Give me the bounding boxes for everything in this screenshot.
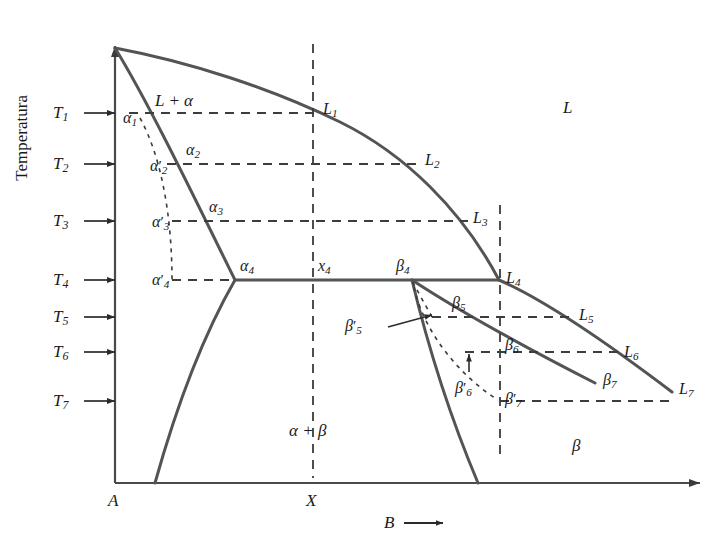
alpha-solvus-curve [155,280,235,483]
region-label-liquid-plus-alpha: L + α [155,92,193,109]
point-label-alpha-2-prime: α′2 [150,158,167,176]
tick-label-T1: T1 [53,104,68,124]
region-label-liquid: L [563,99,572,116]
point-label-alpha-4-prime: α′4 [152,272,169,290]
point-label-L4: L4 [506,270,521,288]
beta5-prime-pointer-arrow [388,315,432,327]
x-axis-origin-label-A: A [108,492,118,509]
beta-liquidus-curve [499,280,672,392]
point-label-alpha-1: α1 [123,110,137,128]
tick-label-T4: T4 [53,271,68,291]
point-label-beta-6: β6 [505,337,519,355]
tick-label-T2: T2 [53,155,68,175]
point-label-L7: L7 [679,381,694,399]
point-label-L2: L2 [425,152,440,170]
tick-label-T7: T7 [53,392,68,412]
point-label-alpha-2: α2 [186,142,200,160]
x-axis-caption-label: B [384,513,394,533]
x-axis-mid-label-X: X [306,492,316,509]
point-label-beta-4: β4 [396,258,410,276]
temperature-tick-arrows [84,113,115,401]
composition-label-x4: x4 [318,258,331,276]
tick-label-T3: T3 [53,212,68,232]
y-axis-label: Temperatura [12,10,32,180]
beta-solvus-curve [412,280,595,383]
point-label-alpha-3-prime: α′3 [152,214,169,232]
point-label-beta-6-prime: β′6 [455,380,472,398]
point-label-beta-5: β5 [452,295,466,313]
region-label-beta: β [572,437,580,454]
point-label-beta-7: β7 [603,372,617,390]
point-label-beta-5-prime: β′5 [345,318,362,336]
point-label-L1: L1 [323,101,338,119]
phase-diagram-figure: Temperatura T1 T2 T3 T4 T5 T6 T7 L L + α… [0,0,721,555]
point-label-beta-7-prime: β′7 [505,391,522,409]
tick-label-T6: T6 [53,343,68,363]
tick-label-T5: T5 [53,308,68,328]
point-label-L6: L6 [624,344,639,362]
region-label-alpha-plus-beta: α + β [289,422,326,439]
phase-diagram-canvas [0,0,721,555]
point-label-alpha-3: α3 [209,199,223,217]
point-label-L5: L5 [579,307,594,325]
point-label-alpha-4: α4 [240,258,254,276]
y-axis-label-text: Temperatura [12,95,32,181]
point-label-L3: L3 [473,210,488,228]
